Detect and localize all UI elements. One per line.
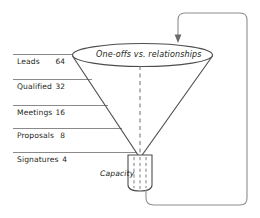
funnel-cone <box>73 56 213 158</box>
stage-value-qualified: 32 <box>49 83 65 90</box>
stage-value-proposals: 8 <box>49 132 65 139</box>
feedback-arrow-head <box>175 35 182 44</box>
feedback-loop-path <box>146 13 247 205</box>
stage-label-leads: Leads <box>17 58 40 66</box>
stage-value-signatures: 4 <box>51 156 67 163</box>
funnel-ellipse-caption: One-offs vs. relationships <box>96 51 202 59</box>
stage-label-qualified: Qualified <box>17 83 52 91</box>
funnel-capacity-caption: Capacity <box>100 170 134 178</box>
stage-label-meetings: Meetings <box>17 109 52 117</box>
funnel-diagram: Leads 64 Qualified 32 Meetings 16 Propos… <box>0 0 260 218</box>
stage-value-meetings: 16 <box>49 109 65 116</box>
stage-value-leads: 64 <box>49 58 65 65</box>
